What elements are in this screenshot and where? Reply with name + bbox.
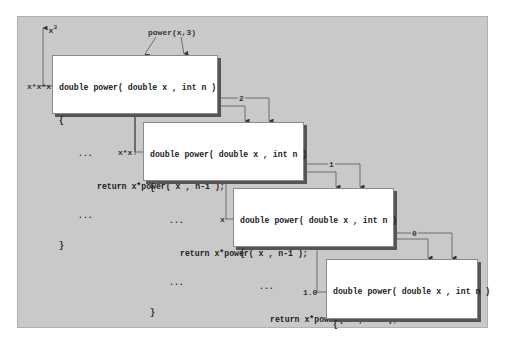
final-result-label: x3 xyxy=(39,17,57,35)
open-brace: { xyxy=(333,319,477,330)
call-frame-2: double power( double x , int n ) { ... r… xyxy=(143,122,304,181)
initial-call-label: power(x,3) xyxy=(148,28,196,37)
call-frame-1: double power( double x , int n ) { ... r… xyxy=(52,55,218,114)
open-brace: { xyxy=(240,248,393,259)
n-passed-label-1: 1 xyxy=(328,160,335,169)
function-signature: double power( double x , int n ) xyxy=(240,215,393,226)
function-signature: double power( double x , int n ) xyxy=(150,149,303,160)
call-frame-4: double power( double x , int n ) { ... r… xyxy=(326,259,478,319)
function-signature: double power( double x , int n ) xyxy=(333,286,477,297)
function-signature: double power( double x , int n ) xyxy=(59,82,217,93)
n-passed-label-0: 0 xyxy=(411,229,418,238)
call-frame-3: double power( double x , int n ) { ... r… xyxy=(233,188,394,247)
final-result-exponent: 3 xyxy=(53,24,57,31)
n-passed-label-2: 2 xyxy=(238,94,245,103)
return-value-label-1: x*x*x xyxy=(27,82,51,91)
